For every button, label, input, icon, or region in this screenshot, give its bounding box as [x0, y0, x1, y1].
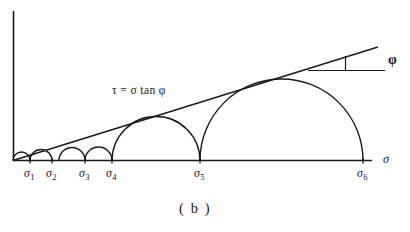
- sigma-label-3-sub: 3: [85, 172, 90, 182]
- failure-envelope-line: [13, 47, 378, 161]
- sigma-label-6: σ6: [357, 167, 368, 181]
- envelope-equation-label: τ = σ tan φ: [112, 85, 166, 97]
- sigma-label-4: σ4: [106, 167, 117, 181]
- sigma-label-6-sub: 6: [363, 172, 368, 182]
- sigma-label-2-sub: 2: [52, 172, 57, 182]
- mohr-circle-5: [112, 117, 200, 161]
- sigma-label-5: σ5: [194, 167, 205, 181]
- sigma-label-1-sub: 1: [30, 172, 35, 182]
- sigma-label-1: σ1: [24, 167, 35, 181]
- mohr-circle-4: [85, 147, 112, 161]
- sigma-label-3: σ3: [79, 167, 90, 181]
- figure-canvas: [0, 0, 410, 232]
- mohr-circle-6: [200, 79, 363, 161]
- sigma-label-2: σ2: [46, 167, 57, 181]
- sigma-label-5-sub: 5: [200, 172, 205, 182]
- figure-caption: ( b ): [179, 201, 211, 216]
- x-axis-label: σ: [383, 153, 389, 166]
- sigma-label-4-sub: 4: [112, 172, 117, 182]
- mohr-circle-3: [59, 148, 85, 161]
- mohr-circle-figure: σ1 σ2 σ3 σ4 σ5 σ6 σ τ = σ tan φ φ ( b ): [0, 0, 410, 232]
- phi-label: φ: [388, 53, 397, 67]
